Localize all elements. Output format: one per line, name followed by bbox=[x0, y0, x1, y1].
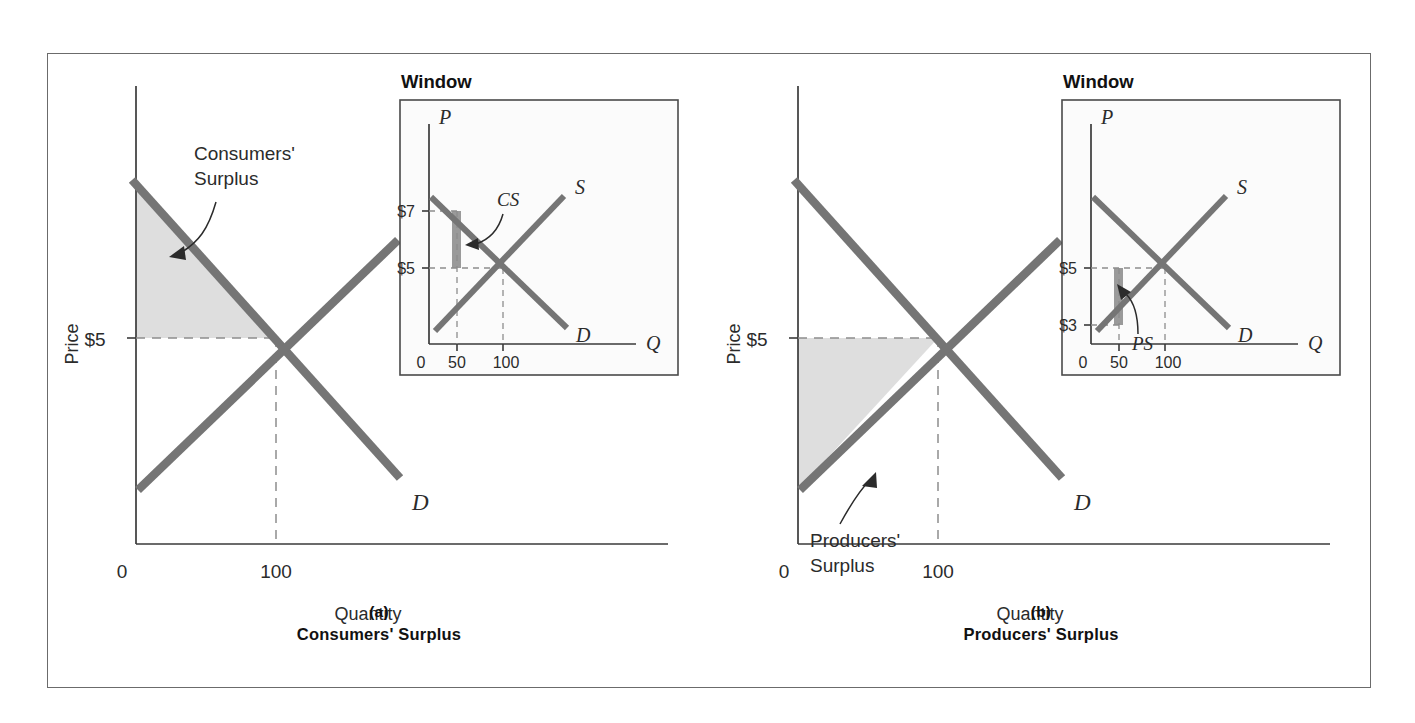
inset-demand-curve-label: D bbox=[1237, 324, 1253, 346]
inset-x-axis-title: Q bbox=[1308, 332, 1323, 354]
x-tick-label-quantity: 100 bbox=[260, 561, 292, 582]
panel-a-caption: (a) Consumers' Surplus bbox=[48, 602, 710, 645]
annotation-leader-line bbox=[840, 480, 870, 524]
inset-y-tick-label-5: $5 bbox=[1059, 260, 1077, 277]
annotation-arrowhead bbox=[862, 472, 877, 488]
inset-y-tick-label-3: $3 bbox=[1059, 317, 1077, 334]
inset-supply-curve-label: S bbox=[575, 176, 585, 198]
inset-supply-curve-label: S bbox=[1237, 176, 1247, 198]
y-axis-title: Price bbox=[724, 323, 744, 364]
annotation-line-2: Surplus bbox=[194, 168, 258, 189]
x-tick-label-quantity: 100 bbox=[922, 561, 954, 582]
panel-b-chart: S D Producers' Surplus $5 0 100 Price Qu… bbox=[710, 54, 1372, 689]
panel-b-caption-title: Producers' Surplus bbox=[710, 623, 1372, 645]
inset-x-tick-label-50: 50 bbox=[1110, 354, 1128, 371]
panel-a-chart: S D Consumers' Surplus $5 0 100 Price Qu… bbox=[48, 54, 710, 689]
panel-a-caption-title: Consumers' Surplus bbox=[48, 623, 710, 645]
figure-root: S D Consumers' Surplus $5 0 100 Price Qu… bbox=[0, 0, 1415, 723]
inset-x-axis-title: Q bbox=[646, 332, 661, 354]
inset-y-axis-title: P bbox=[1100, 106, 1113, 128]
inset-annotation-cs: CS bbox=[497, 189, 520, 210]
inset-window-frame bbox=[400, 100, 678, 375]
annotation-line-1: Consumers' bbox=[194, 143, 295, 164]
inset-window-frame bbox=[1062, 100, 1340, 375]
x-origin-label: 0 bbox=[779, 561, 790, 582]
window-label: Window bbox=[401, 71, 472, 92]
inset-x-origin-label: 0 bbox=[417, 354, 426, 371]
inset-x-tick-label-100: 100 bbox=[493, 354, 520, 371]
panel-a-caption-letter: (a) bbox=[48, 602, 710, 623]
inset-y-tick-label-5: $5 bbox=[397, 260, 415, 277]
inset-annotation-ps: PS bbox=[1131, 333, 1154, 354]
panel-consumers-surplus: S D Consumers' Surplus $5 0 100 Price Qu… bbox=[48, 54, 710, 689]
annotation-line-1: Producers' bbox=[810, 530, 900, 551]
inset-y-axis-title: P bbox=[438, 106, 451, 128]
inset-x-tick-label-100: 100 bbox=[1155, 354, 1182, 371]
y-tick-label-price: $5 bbox=[84, 329, 105, 350]
figure-outer-frame: S D Consumers' Surplus $5 0 100 Price Qu… bbox=[47, 53, 1371, 688]
inset-x-origin-label: 0 bbox=[1079, 354, 1088, 371]
window-label: Window bbox=[1063, 71, 1134, 92]
y-axis-title: Price bbox=[62, 323, 82, 364]
demand-curve-label: D bbox=[411, 490, 429, 515]
x-origin-label: 0 bbox=[117, 561, 128, 582]
inset-demand-curve-label: D bbox=[575, 324, 591, 346]
panel-b-caption-letter: (b) bbox=[710, 602, 1372, 623]
demand-curve-label: D bbox=[1073, 490, 1091, 515]
inset-x-tick-label-50: 50 bbox=[448, 354, 466, 371]
y-tick-label-price: $5 bbox=[746, 329, 767, 350]
annotation-line-2: Surplus bbox=[810, 555, 874, 576]
inset-y-tick-label-7: $7 bbox=[397, 203, 415, 220]
panel-producers-surplus: S D Producers' Surplus $5 0 100 Price Qu… bbox=[710, 54, 1372, 689]
panel-b-caption: (b) Producers' Surplus bbox=[710, 602, 1372, 645]
